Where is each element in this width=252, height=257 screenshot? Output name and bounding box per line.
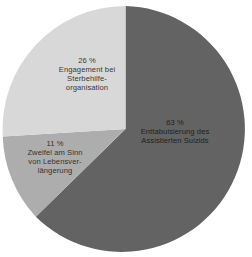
pie-chart-figure: 63 % Enttabuisierung des Assistierten Su… <box>0 0 252 257</box>
pie-chart-graphic <box>0 0 252 257</box>
pie-slice-engagement <box>3 6 126 136</box>
